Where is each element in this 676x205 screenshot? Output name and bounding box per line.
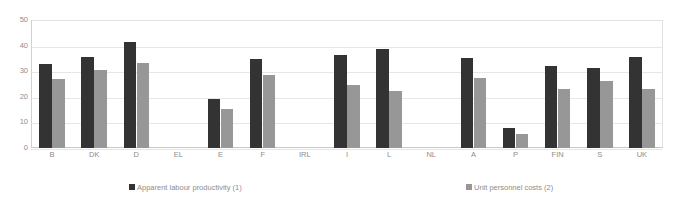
bar[interactable] [347,85,360,148]
bar[interactable] [545,66,558,148]
bar[interactable] [39,64,52,148]
legend-swatch-icon [466,184,472,190]
x-axis-tick-label: S [579,150,621,160]
bar-group [124,20,150,148]
bar[interactable] [642,89,655,148]
legend-item-label: Apparent labour productivity (1) [137,183,242,192]
bar[interactable] [81,57,94,148]
bar[interactable] [250,59,263,148]
x-axis-tick-label: I [326,150,368,160]
chart-legend: Apparent labour productivity (1) Unit pe… [0,180,676,194]
bar[interactable] [461,58,474,148]
bar-group [334,20,360,148]
bar[interactable] [52,79,65,148]
bar[interactable] [334,55,347,148]
bar[interactable] [263,75,276,148]
x-axis-tick-label: L [368,150,410,160]
legend-item-apparent-labour-productivity[interactable]: Apparent labour productivity (1) [129,183,242,192]
y-axis-tick-label: 40 [2,42,28,50]
bars-layer [31,20,663,148]
bar-group [166,20,192,148]
x-axis-tick-labels: BDKDELEFIRLILNLAPFINSUK [31,150,663,164]
x-axis-tick-label: FIN [537,150,579,160]
x-axis-tick-label: F [242,150,284,160]
legend-item-label: Unit personnel costs (2) [474,183,553,192]
bar-chart: 01020304050 BDKDELEFIRLILNLAPFINSUK Appa… [0,0,676,205]
x-axis-tick-label: DK [73,150,115,160]
bar-group [587,20,613,148]
bar[interactable] [376,49,389,148]
bar-group [39,20,65,148]
bar[interactable] [208,99,221,148]
x-axis-tick-label: E [200,150,242,160]
bar-group [629,20,655,148]
bar[interactable] [221,109,234,148]
bar[interactable] [124,42,137,148]
x-axis-tick-label: UK [621,150,663,160]
y-axis-tick-label: 0 [2,144,28,152]
bar-group [419,20,445,148]
x-axis-tick-label: EL [157,150,199,160]
bar-group [292,20,318,148]
bar[interactable] [558,89,571,148]
y-axis-tick-label: 30 [2,67,28,75]
bar[interactable] [94,70,107,148]
bar[interactable] [503,128,516,148]
bar-group [461,20,487,148]
x-axis-tick-label: P [494,150,536,160]
bar-group [503,20,529,148]
bar[interactable] [474,78,487,148]
bar-group [208,20,234,148]
bar[interactable] [389,91,402,148]
legend-swatch-icon [129,184,135,190]
bar[interactable] [137,63,150,148]
y-axis-tick-label: 50 [2,16,28,24]
bar-group [250,20,276,148]
x-axis-tick-label: NL [410,150,452,160]
x-axis-tick-label: IRL [284,150,326,160]
bar-group [545,20,571,148]
legend-item-unit-personnel-costs[interactable]: Unit personnel costs (2) [466,183,553,192]
y-axis-tick-label: 20 [2,93,28,101]
bar-group [81,20,107,148]
bar[interactable] [629,57,642,148]
x-axis-tick-label: A [452,150,494,160]
bar[interactable] [600,81,613,148]
x-axis-tick-label: D [115,150,157,160]
bar-group [376,20,402,148]
bar[interactable] [516,134,529,148]
x-axis-tick-label: B [31,150,73,160]
y-axis-tick-labels: 01020304050 [0,20,28,148]
y-axis-tick-label: 10 [2,118,28,126]
bar[interactable] [587,68,600,148]
